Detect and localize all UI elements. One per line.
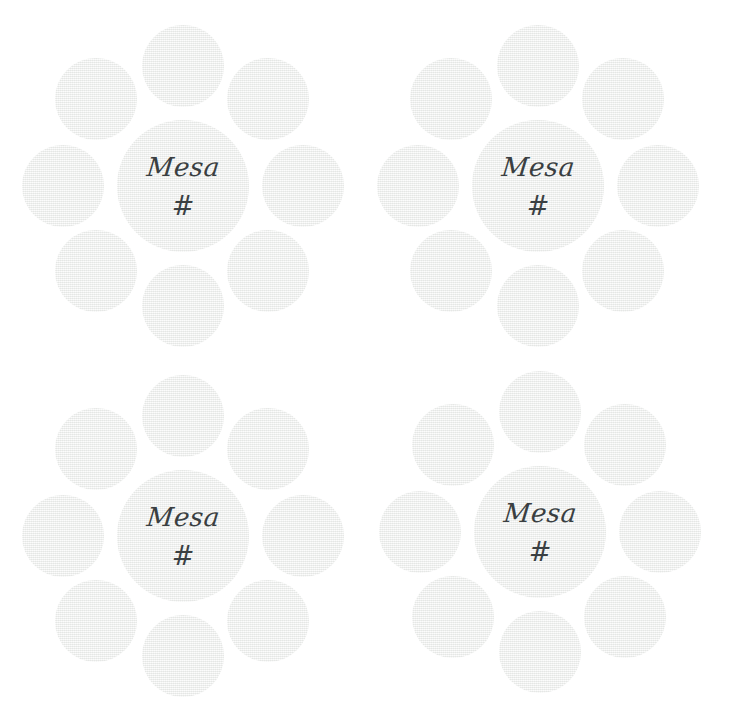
circle-cluster: Mesa # — [370, 362, 710, 702]
center-circle: Mesa # — [117, 120, 249, 252]
satellite-circle-ne — [584, 404, 666, 486]
satellite-circle-w — [22, 495, 104, 577]
satellite-circle-s — [499, 611, 581, 693]
satellite-circle-n — [497, 25, 579, 107]
satellite-circle-s — [142, 615, 224, 697]
satellite-circle-n — [142, 375, 224, 457]
satellite-circle-ne — [227, 408, 309, 490]
center-label-name: Mesa — [145, 504, 221, 530]
satellite-circle-sw — [412, 576, 494, 658]
satellite-circle-nw — [412, 404, 494, 486]
circle-cluster: Mesa # — [368, 16, 708, 356]
satellite-circle-w — [379, 491, 461, 573]
satellite-circle-nw — [55, 408, 137, 490]
satellite-circle-sw — [55, 230, 137, 312]
center-label-name: Mesa — [502, 500, 578, 526]
canvas: Mesa # Mesa # Mesa — [0, 0, 729, 713]
circle-cluster: Mesa # — [13, 16, 353, 356]
center-label-name: Mesa — [500, 154, 576, 180]
satellite-circle-ne — [227, 58, 309, 140]
satellite-circle-ne — [582, 58, 664, 140]
center-label-hash: # — [147, 542, 220, 569]
satellite-circle-s — [497, 265, 579, 347]
satellite-circle-e — [619, 491, 701, 573]
center-label-hash: # — [502, 192, 575, 219]
satellite-circle-sw — [410, 230, 492, 312]
satellite-circle-nw — [410, 58, 492, 140]
center-circle: Mesa # — [474, 466, 606, 598]
center-circle: Mesa # — [117, 470, 249, 602]
satellite-circle-se — [227, 580, 309, 662]
satellite-circle-n — [499, 371, 581, 453]
circle-cluster: Mesa # — [13, 366, 353, 706]
center-label-hash: # — [147, 192, 220, 219]
satellite-circle-sw — [55, 580, 137, 662]
satellite-circle-se — [582, 230, 664, 312]
center-label-name: Mesa — [145, 154, 221, 180]
satellite-circle-se — [227, 230, 309, 312]
center-label: Mesa # — [147, 154, 220, 219]
satellite-circle-w — [377, 145, 459, 227]
center-label: Mesa # — [147, 504, 220, 569]
satellite-circle-n — [142, 25, 224, 107]
satellite-circle-nw — [55, 58, 137, 140]
satellite-circle-e — [262, 145, 344, 227]
center-label: Mesa # — [502, 154, 575, 219]
satellite-circle-s — [142, 265, 224, 347]
satellite-circle-w — [22, 145, 104, 227]
center-label-hash: # — [504, 538, 577, 565]
satellite-circle-e — [617, 145, 699, 227]
center-circle: Mesa # — [472, 120, 604, 252]
satellite-circle-se — [584, 576, 666, 658]
satellite-circle-e — [262, 495, 344, 577]
center-label: Mesa # — [504, 500, 577, 565]
